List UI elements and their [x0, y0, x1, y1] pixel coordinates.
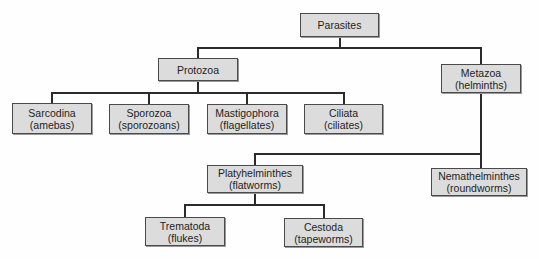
- node-common-name: (flatworms): [229, 179, 281, 191]
- node-parasites: Parasites: [300, 13, 379, 37]
- connector-level1-horizontal: [197, 47, 482, 49]
- connector-to-cestoda: [323, 204, 325, 218]
- connector-to-mastigophora: [246, 92, 248, 104]
- connector-to-ciliata: [343, 92, 345, 104]
- node-common-name: (sporozoans): [118, 119, 179, 131]
- node-label: Parasites: [318, 19, 362, 31]
- connector-to-trematoda: [184, 204, 186, 217]
- node-ciliata: Ciliata (ciliates): [304, 104, 383, 134]
- node-protozoa: Protozoa: [158, 58, 238, 81]
- node-mastigophora: Mastigophora (flagellates): [207, 104, 287, 134]
- node-label: Protozoa: [177, 64, 219, 76]
- node-sarcodina: Sarcodina (amebas): [12, 103, 92, 134]
- node-common-name: (amebas): [30, 119, 74, 131]
- connector-metazoa-horizontal: [254, 153, 482, 155]
- parasite-classification-diagram: Parasites Protozoa Metazoa (helminths) S…: [0, 0, 539, 259]
- node-common-name: (tapeworms): [294, 233, 352, 245]
- connector-to-sarcodina: [51, 92, 53, 103]
- node-nemathelminthes: Nemathelminthes (roundworms): [431, 168, 527, 196]
- node-common-name: (flukes): [168, 232, 202, 244]
- node-name: Trematoda: [160, 220, 210, 232]
- node-cestoda: Cestoda (tapeworms): [284, 218, 363, 247]
- node-common-name: (flagellates): [220, 119, 274, 131]
- node-name: Metazoa: [461, 67, 501, 79]
- node-sporozoa: Sporozoa (sporozoans): [109, 104, 189, 134]
- connector-to-platyhelminthes: [254, 153, 256, 165]
- node-name: Nemathelminthes: [438, 170, 520, 182]
- connector-platyhelminthes-horizontal: [184, 204, 325, 206]
- node-common-name: (helminths): [455, 79, 507, 91]
- node-name: Cestoda: [304, 221, 343, 233]
- node-name: Platyhelminthes: [218, 167, 292, 179]
- node-metazoa: Metazoa (helminths): [441, 64, 521, 93]
- node-common-name: (roundworms): [447, 182, 512, 194]
- connector-metazoa-down: [480, 92, 482, 168]
- connector-to-protozoa: [197, 47, 199, 58]
- node-name: Sarcodina: [28, 107, 75, 119]
- node-trematoda: Trematoda (flukes): [145, 217, 225, 246]
- node-name: Sporozoa: [127, 107, 172, 119]
- node-platyhelminthes: Platyhelminthes (flatworms): [207, 165, 303, 193]
- node-name: Mastigophora: [215, 107, 279, 119]
- node-name: Ciliata: [329, 107, 358, 119]
- connector-protozoa-horizontal: [51, 92, 345, 94]
- node-common-name: (ciliates): [324, 119, 363, 131]
- connector-to-metazoa: [480, 47, 482, 64]
- connector-to-sporozoa: [148, 92, 150, 104]
